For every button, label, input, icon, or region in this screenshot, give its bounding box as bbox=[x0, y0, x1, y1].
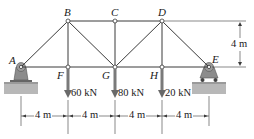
node-label-c: C bbox=[111, 7, 118, 18]
truss-members bbox=[21, 21, 209, 67]
node-label-h: H bbox=[150, 70, 158, 81]
node-label-e: E bbox=[212, 54, 219, 65]
support-e-ground bbox=[192, 82, 226, 94]
node-label-g: G bbox=[102, 70, 110, 81]
dimension-label-height: 4 m bbox=[230, 39, 248, 50]
load-label-f: 60 kN bbox=[71, 88, 97, 99]
load-label-h: 20 kN bbox=[165, 88, 191, 99]
dimension-label-1: 4 m bbox=[34, 110, 52, 121]
node-label-a: A bbox=[9, 55, 16, 66]
support-a-ground bbox=[4, 82, 38, 94]
node-label-f: F bbox=[57, 70, 64, 81]
load-label-g: 80 kN bbox=[118, 88, 144, 99]
dimension-label-4: 4 m bbox=[175, 110, 193, 121]
node-label-d: D bbox=[158, 7, 166, 18]
dimension-label-3: 4 m bbox=[128, 110, 146, 121]
dimension-label-2: 4 m bbox=[81, 110, 99, 121]
truss-diagram: A B C D E F G H 60 kN 80 kN 20 kN 4 m 4 … bbox=[0, 0, 254, 139]
node-label-b: B bbox=[64, 7, 71, 18]
